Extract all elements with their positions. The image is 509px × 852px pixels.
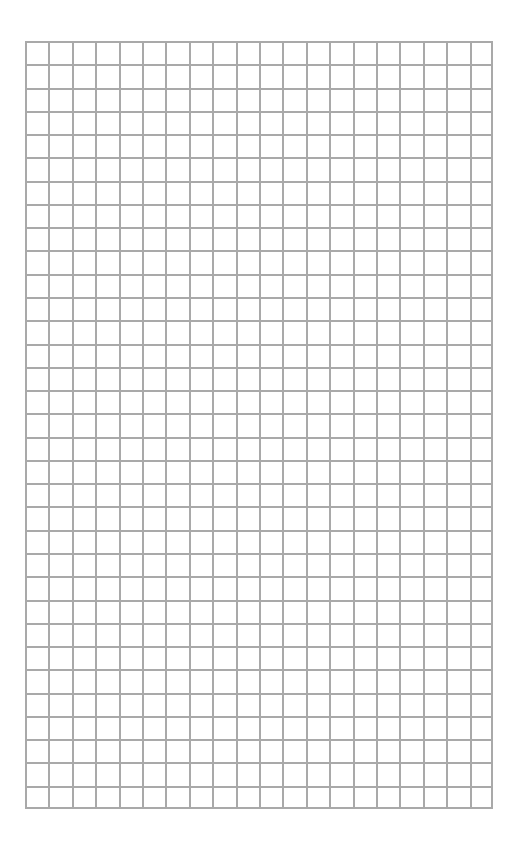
grid-horizontal-line (27, 646, 491, 648)
grid-horizontal-line (27, 413, 491, 415)
grid-horizontal-line (27, 204, 491, 206)
grid-horizontal-line (27, 693, 491, 695)
grid-horizontal-line (27, 390, 491, 392)
grid-horizontal-line (27, 483, 491, 485)
grid-horizontal-line (27, 157, 491, 159)
grid-horizontal-line (27, 739, 491, 741)
grid-horizontal-line (27, 250, 491, 252)
grid-horizontal-line (27, 460, 491, 462)
grid-horizontal-line (27, 181, 491, 183)
grid-horizontal-line (27, 320, 491, 322)
grid-horizontal-line (27, 623, 491, 625)
grid-horizontal-line (27, 553, 491, 555)
grid-horizontal-line (27, 367, 491, 369)
grid-horizontal-line (27, 437, 491, 439)
grid-horizontal-line (27, 88, 491, 90)
grid-horizontal-line (27, 786, 491, 788)
grid-horizontal-line (27, 600, 491, 602)
grid-horizontal-line (27, 530, 491, 532)
grid-horizontal-line (27, 297, 491, 299)
grid-horizontal-line (27, 576, 491, 578)
graph-paper-grid (25, 41, 493, 809)
grid-horizontal-line (27, 716, 491, 718)
grid-horizontal-line (27, 274, 491, 276)
grid-horizontal-line (27, 111, 491, 113)
grid-horizontal-line (27, 64, 491, 66)
grid-horizontal-line (27, 227, 491, 229)
grid-horizontal-line (27, 506, 491, 508)
grid-horizontal-line (27, 344, 491, 346)
grid-horizontal-line (27, 669, 491, 671)
grid-horizontal-line (27, 762, 491, 764)
grid-horizontal-line (27, 134, 491, 136)
